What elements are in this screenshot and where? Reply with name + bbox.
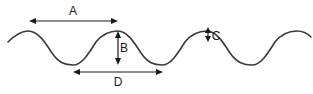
annotation-c-arrowhead-bottom (205, 36, 211, 42)
annotation-label-d: D (114, 76, 123, 88)
annotation-c (205, 27, 211, 42)
annotation-d-arrowhead-right (156, 69, 163, 75)
annotation-c-arrowhead-top (205, 27, 211, 33)
annotation-label-b: B (120, 42, 128, 54)
wave-diagram: A B C D (0, 0, 313, 94)
wave-curve (8, 31, 311, 65)
annotation-b-arrowhead-bottom (115, 58, 121, 65)
annotation-d-arrowhead-left (73, 69, 80, 75)
annotation-a (29, 18, 118, 24)
annotation-b-arrowhead-top (115, 31, 121, 38)
annotation-label-c: C (212, 30, 221, 42)
annotation-label-a: A (69, 5, 77, 17)
annotation-a-arrowhead-right (111, 18, 118, 24)
annotation-a-arrowhead-left (29, 18, 36, 24)
wave-diagram-canvas (0, 0, 313, 94)
